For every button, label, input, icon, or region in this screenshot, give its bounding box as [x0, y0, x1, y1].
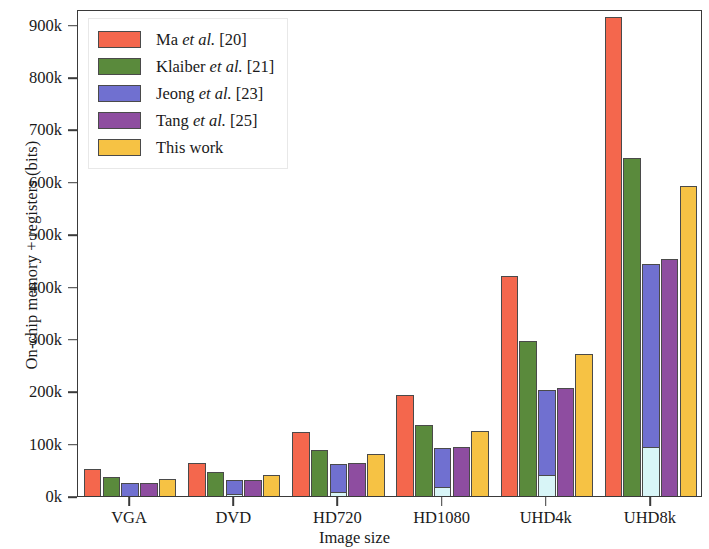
x-tick-mark [128, 497, 130, 506]
bar [367, 454, 385, 496]
legend-color-swatch [98, 58, 141, 75]
bar [519, 341, 537, 497]
bar-sub-segment [538, 475, 556, 496]
bar-sub-segment [642, 447, 660, 496]
bar [311, 450, 329, 496]
chart-legend: Ma et al. [20]Klaiber et al. [21]Jeong e… [88, 18, 288, 169]
x-tick-mark [232, 497, 234, 506]
bar [103, 477, 121, 496]
legend-item: This work [98, 134, 274, 161]
legend-item: Jeong et al. [23] [98, 80, 274, 107]
bar [140, 483, 158, 496]
x-tick-mark [337, 497, 339, 506]
legend-color-swatch [98, 139, 141, 156]
bar [661, 259, 679, 496]
bar-sub-segment [434, 487, 452, 496]
y-tick-label: 400k [0, 278, 62, 298]
bar [244, 480, 262, 496]
x-tick-mark [545, 497, 547, 506]
y-tick-label: 600k [0, 173, 62, 193]
bar [207, 472, 225, 496]
legend-item-label: This work [156, 138, 223, 158]
x-tick-label: UHD8k [580, 508, 709, 528]
y-tick-label: 500k [0, 225, 62, 245]
x-tick-mark [441, 497, 443, 506]
y-tick-mark [68, 444, 77, 446]
legend-item: Klaiber et al. [21] [98, 53, 274, 80]
bar-sub-segment [226, 494, 244, 496]
bar [453, 447, 471, 496]
legend-item-label: Ma et al. [20] [156, 30, 247, 50]
bar [121, 483, 139, 496]
legend-color-swatch [98, 85, 141, 102]
bar [415, 425, 433, 496]
legend-item: Tang et al. [25] [98, 107, 274, 134]
bar [348, 463, 366, 496]
bar-chart-figure: On-chip memory + registers (bits) 0k100k… [0, 0, 709, 549]
y-tick-mark [68, 234, 77, 236]
bar [292, 432, 310, 496]
y-tick-label: 0k [0, 487, 62, 507]
y-tick-label: 900k [0, 16, 62, 36]
y-tick-mark [68, 130, 77, 132]
bar-sub-segment [121, 496, 139, 497]
y-tick-mark [68, 339, 77, 341]
y-tick-label: 100k [0, 435, 62, 455]
bar [623, 158, 641, 496]
x-axis-title: Image size [0, 528, 709, 548]
bar [84, 469, 102, 496]
y-tick-label: 200k [0, 382, 62, 402]
bar [605, 17, 623, 496]
y-tick-mark [68, 287, 77, 289]
bar [642, 264, 660, 496]
y-tick-mark [68, 25, 77, 27]
y-tick-mark [68, 391, 77, 393]
y-tick-label: 800k [0, 68, 62, 88]
y-tick-mark [68, 496, 77, 498]
bar [434, 448, 452, 496]
bar [226, 480, 244, 496]
bar [188, 463, 206, 496]
legend-color-swatch [98, 112, 141, 129]
bar [159, 479, 177, 496]
bar [330, 464, 348, 496]
bar [538, 390, 556, 496]
y-tick-mark [68, 182, 77, 184]
y-tick-mark [68, 77, 77, 79]
bar [557, 388, 575, 496]
bar-sub-segment [330, 492, 348, 496]
bar [680, 186, 698, 496]
x-tick-mark [649, 497, 651, 506]
bar [501, 276, 519, 496]
legend-color-swatch [98, 31, 141, 48]
legend-item: Ma et al. [20] [98, 26, 274, 53]
legend-item-label: Jeong et al. [23] [156, 84, 263, 104]
bar [396, 395, 414, 496]
bar [263, 475, 281, 496]
legend-item-label: Tang et al. [25] [156, 111, 258, 131]
bar [575, 354, 593, 496]
legend-item-label: Klaiber et al. [21] [156, 57, 274, 77]
y-tick-label: 300k [0, 330, 62, 350]
y-tick-label: 700k [0, 120, 62, 140]
bar [471, 431, 489, 496]
